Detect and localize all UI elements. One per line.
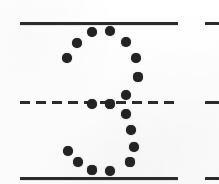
glyph-dot bbox=[72, 38, 82, 48]
glyph-dot bbox=[73, 157, 83, 167]
glyph-dot bbox=[131, 53, 141, 63]
glyph-dot bbox=[133, 72, 142, 81]
glyph-dot bbox=[105, 99, 114, 108]
glyph-dot bbox=[62, 53, 72, 63]
glyph-dot bbox=[126, 125, 136, 135]
glyph-dot bbox=[63, 146, 73, 156]
figure-canvas bbox=[0, 0, 219, 184]
glyph-dot bbox=[129, 142, 139, 152]
middle-dashed-rule bbox=[20, 101, 178, 104]
bottom-solid-rule bbox=[20, 177, 178, 180]
top-solid-rule bbox=[20, 22, 178, 25]
glyph-dot bbox=[125, 157, 134, 166]
glyph-dot bbox=[87, 165, 96, 174]
bottom-rule-stub bbox=[205, 177, 219, 180]
glyph-dot bbox=[121, 37, 131, 47]
glyph-dot bbox=[105, 166, 115, 176]
glyph-dot bbox=[121, 90, 131, 100]
middle-rule-stub bbox=[205, 101, 219, 104]
glyph-dot bbox=[87, 99, 97, 109]
glyph-dot bbox=[121, 109, 131, 119]
glyph-dot bbox=[105, 26, 115, 36]
glyph-dot bbox=[87, 27, 97, 37]
top-rule-stub bbox=[205, 22, 219, 25]
